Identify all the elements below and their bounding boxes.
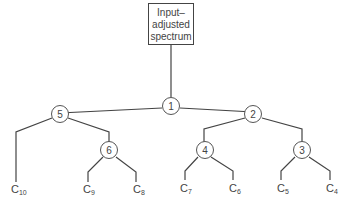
leaf-c8: C8 [133,183,145,196]
leaf-c4: C4 [326,182,338,195]
box-line-1: Input– [149,7,193,19]
node-4: 4 [196,141,214,159]
leaf-c10: C10 [11,183,27,196]
node-1: 1 [162,97,180,115]
node-3: 3 [293,141,311,159]
box-line-3: spectrum [149,31,193,43]
node-6: 6 [100,141,118,159]
node-2: 2 [244,105,262,123]
leaf-c5: C5 [277,182,289,195]
leaf-c7: C7 [180,182,192,195]
input-adjusted-spectrum-box: Input– adjusted spectrum [148,3,194,45]
leaf-c9: C9 [83,183,95,196]
box-line-2: adjusted [149,19,193,31]
leaf-c6: C6 [229,182,241,195]
node-5: 5 [51,105,69,123]
